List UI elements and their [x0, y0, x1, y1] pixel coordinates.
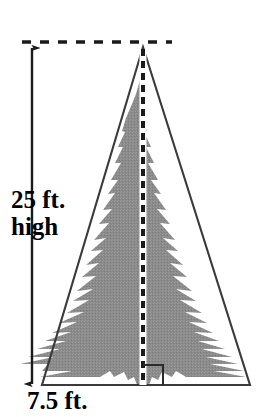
- height-label-qualifier: high: [11, 213, 65, 240]
- base-dimension-label: 7.5 ft.: [27, 387, 87, 414]
- height-label-value: 25 ft.: [11, 186, 65, 213]
- height-dimension-label: 25 ft. high: [11, 186, 65, 240]
- tree-geometry-figure: 25 ft. high 7.5 ft.: [0, 0, 263, 417]
